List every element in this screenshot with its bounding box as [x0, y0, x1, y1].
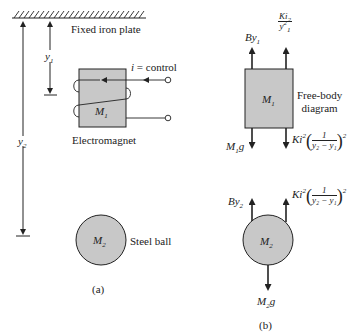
- force-b-ydot2-label: By2: [228, 196, 243, 207]
- force-magnetic-m2-label: Ki2(1y₂ − y₁)2: [292, 186, 346, 205]
- y1-label: y1: [45, 51, 53, 62]
- diagram-canvas: [0, 0, 356, 332]
- fbd-label: Free-body diagram: [297, 89, 342, 115]
- steel-ball-label: Steel ball: [130, 236, 171, 247]
- y2-dimension-arrow: [16, 24, 30, 236]
- fixed-iron-plate-label: Fixed iron plate: [71, 24, 141, 35]
- caption-b: (b): [259, 320, 272, 331]
- caption-a: (a): [92, 284, 104, 295]
- force-magnetic-top-label: Ki2y21: [278, 12, 292, 31]
- terminal-bottom: [165, 115, 171, 121]
- fbd-m2-mass-label: M2: [260, 236, 273, 247]
- electromagnet: [74, 69, 171, 127]
- fbd-m1-mass-label: M1: [262, 94, 275, 105]
- force-weight-m2-label: M2g: [257, 296, 275, 307]
- force-b-ydot1-label: By1: [245, 32, 260, 43]
- control-label: ii = control = control: [131, 62, 177, 73]
- force-magnetic-m1-label: Ki2(1y₂ − y₁)2: [292, 131, 346, 150]
- terminal-top: [165, 77, 171, 83]
- fixed-iron-plate: [12, 11, 146, 18]
- y2-label: y2: [18, 136, 26, 147]
- force-weight-m1-label: M1g: [226, 141, 244, 152]
- electromagnet-label: Electromagnet: [72, 135, 136, 146]
- steel-ball-mass-label: M2: [93, 235, 106, 246]
- electromagnet-mass-label: M1: [95, 106, 108, 117]
